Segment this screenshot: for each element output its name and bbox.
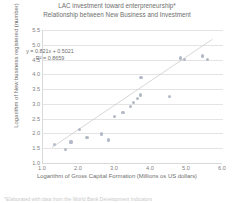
chart-title-line-2: Relationship between New Business and In… — [0, 11, 234, 20]
chart-title-line-1: LAC investment toward enterpreneurship* — [0, 2, 234, 11]
x-tick-label: 1.0 — [30, 165, 54, 172]
data-point — [121, 111, 124, 114]
chart-title: LAC investment toward enterpreneurship* … — [0, 2, 234, 19]
y-tick-label: 4.0 — [4, 71, 40, 77]
regression-equation: y = 0.821x + 0.5021 — [13, 48, 87, 55]
x-tick-label: 4.0 — [138, 165, 162, 172]
data-point — [129, 105, 132, 108]
scatter-chart: LAC investment toward enterpreneurship* … — [0, 0, 234, 203]
data-point — [183, 58, 186, 61]
data-point — [100, 132, 103, 135]
data-point — [136, 97, 139, 100]
y-tick-label: 2.0 — [4, 130, 40, 136]
data-point — [69, 140, 72, 143]
data-point — [201, 54, 204, 57]
chart-footnote: *Elaborated with data from the World Ban… — [4, 196, 230, 202]
x-axis-line — [42, 163, 222, 164]
y-tick-label: 3.5 — [4, 86, 40, 92]
regression-r-squared: R² = 0.8659 — [13, 55, 87, 62]
data-point — [139, 93, 142, 96]
x-tick-label: 5.0 — [174, 165, 198, 172]
regression-annotation: y = 0.821x + 0.5021 R² = 0.8659 — [13, 48, 87, 61]
y-tick-label: 3.0 — [4, 101, 40, 107]
data-point — [53, 143, 56, 146]
data-point — [113, 115, 116, 118]
data-point — [107, 138, 110, 141]
x-axis-title: Logarithm of Gross Capital Formation (Mi… — [0, 173, 234, 180]
y-axis-title: Logarithm of New business registered (nu… — [13, 0, 20, 135]
y-tick-label: 5.5 — [4, 27, 40, 33]
x-tick-label: 3.0 — [102, 165, 126, 172]
data-point — [179, 56, 182, 59]
y-tick-label: 5.0 — [4, 42, 40, 48]
y-tick-label: 1.5 — [4, 145, 40, 151]
x-tick-label: 6.0 — [210, 165, 234, 172]
y-tick-label: 2.5 — [4, 116, 40, 122]
x-tick-label: 2.0 — [66, 165, 90, 172]
